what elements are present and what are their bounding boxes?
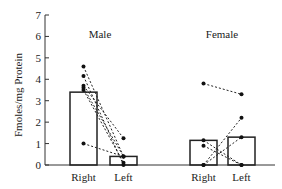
panels: MaleRightLeftFemaleRightLeft [70,28,255,183]
category-label: Left [232,171,250,183]
chart: 01234567 Fmoles/mg Protein MaleRightLeft… [0,0,282,189]
y-tick-label: 4 [36,73,42,85]
pair-line [204,137,242,165]
data-point [240,135,244,139]
data-point [202,163,206,167]
panel-female: FemaleRightLeft [190,28,255,183]
y-tick-label: 6 [36,30,42,42]
y-tick-label: 0 [36,159,42,171]
axes: 01234567 [36,9,276,171]
y-tick-label: 2 [36,116,42,128]
category-label: Right [191,171,215,183]
pair-line [204,146,242,165]
pair-line [84,90,124,163]
panel-title: Female [206,28,238,40]
data-point [240,116,244,120]
data-point [82,142,86,146]
pair-line [84,76,124,165]
panel-male: MaleRightLeft [70,28,137,183]
category-label: Right [71,171,95,183]
data-point [122,136,126,140]
category-label: Left [114,171,132,183]
data-point [122,161,126,165]
pair-line [84,88,124,157]
pair-line [204,84,242,95]
data-point [240,92,244,96]
y-tick-label: 3 [36,95,42,107]
data-point [240,163,244,167]
data-point [122,154,126,158]
y-tick-label: 1 [36,138,42,150]
y-tick-label: 5 [36,52,42,64]
data-point [82,74,86,78]
pair-line [84,86,124,138]
data-point [202,138,206,142]
data-point [202,82,206,86]
data-point [82,88,86,92]
pair-line [84,144,124,157]
y-axis-label: Fmoles/mg Protein [12,52,24,137]
panel-title: Male [89,28,112,40]
bar-left [228,137,255,165]
pair-line [204,118,242,165]
pair-line [204,140,242,165]
data-point [202,144,206,148]
y-tick-label: 7 [36,9,42,21]
data-point [82,64,86,68]
